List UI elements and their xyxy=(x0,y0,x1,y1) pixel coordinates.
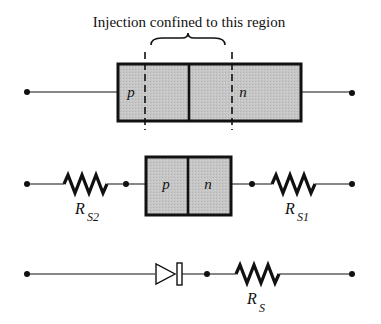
rs2-subscript: S2 xyxy=(87,210,99,224)
diode-icon xyxy=(156,264,175,284)
rs1-label: R xyxy=(284,200,295,217)
rs2-label: R xyxy=(74,200,85,217)
p-region-label: p xyxy=(126,84,135,100)
n-region-label: n xyxy=(204,176,212,192)
rs-label: R xyxy=(246,290,257,307)
rs1-subscript: S1 xyxy=(297,210,309,224)
diagram-canvas: Injection confined to this region p n p … xyxy=(0,0,381,324)
terminal-dot xyxy=(24,271,30,277)
terminal-dot xyxy=(24,181,30,187)
terminal-dot xyxy=(24,89,30,95)
p-region-label: p xyxy=(161,176,170,192)
caption-text: Injection confined to this region xyxy=(93,14,286,30)
node-dot xyxy=(204,271,210,277)
brace-icon xyxy=(151,33,225,45)
resistor-rs1-icon xyxy=(272,175,315,193)
rs-subscript: S xyxy=(259,301,265,315)
terminal-dot xyxy=(349,90,355,96)
terminal-dot xyxy=(349,271,355,277)
bottom-simplified-circuit: R S xyxy=(24,263,355,315)
resistor-rs2-icon xyxy=(64,175,107,193)
middle-equivalent-circuit: p n R S2 R S1 xyxy=(24,157,355,224)
terminal-dot xyxy=(349,181,355,187)
resistor-rs-icon xyxy=(236,265,279,283)
n-region-label: n xyxy=(239,84,247,100)
node-dot xyxy=(249,181,255,187)
top-pn-junction: p n xyxy=(24,52,355,130)
node-dot xyxy=(123,181,129,187)
diode-cathode-bar xyxy=(177,263,182,285)
